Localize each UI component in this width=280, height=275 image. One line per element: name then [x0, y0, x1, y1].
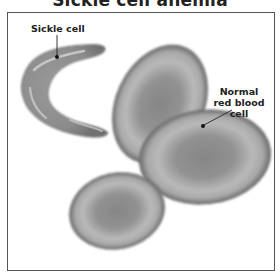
normal-cell-label: Normal red blood cell: [210, 86, 268, 119]
sickle-cell-label: Sickle cell: [31, 23, 85, 34]
sickle-pointer-dot: [55, 55, 59, 59]
cells-illustration: [0, 0, 280, 275]
normal-pointer-dot: [201, 124, 205, 128]
sickle-cell: [22, 45, 108, 137]
